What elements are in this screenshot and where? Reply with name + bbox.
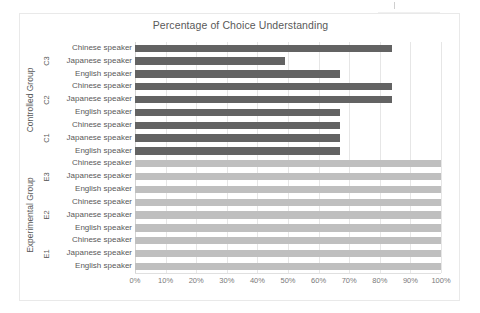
bar-row bbox=[135, 68, 441, 81]
bar bbox=[135, 147, 340, 154]
category-label: Chinese speaker bbox=[54, 234, 132, 247]
x-tick-label: 30% bbox=[219, 276, 234, 285]
x-tick-label: 100% bbox=[431, 276, 450, 285]
bar bbox=[135, 237, 441, 244]
bar bbox=[135, 109, 340, 116]
category-label: Chinese speaker bbox=[54, 42, 132, 55]
condition-label-text: C1 bbox=[42, 133, 51, 143]
bar-row bbox=[135, 157, 441, 170]
condition-label: E2 bbox=[39, 196, 53, 235]
bar bbox=[135, 173, 441, 180]
x-tick-label: 40% bbox=[250, 276, 265, 285]
bar-row bbox=[135, 170, 441, 183]
x-axis-line bbox=[135, 273, 441, 274]
x-tick-label: 50% bbox=[280, 276, 295, 285]
category-axis-labels: Chinese speakerJapanese speakerEnglish s… bbox=[54, 42, 132, 273]
bar-row bbox=[135, 234, 441, 247]
bar bbox=[135, 186, 441, 193]
bar-row bbox=[135, 196, 441, 209]
group-axis-labels: Controlled GroupExperimental Group bbox=[22, 42, 38, 273]
x-tick-label: 0% bbox=[130, 276, 141, 285]
condition-label-text: E1 bbox=[42, 249, 51, 258]
condition-label-text: C2 bbox=[42, 95, 51, 105]
category-label: English speaker bbox=[54, 106, 132, 119]
category-label: Chinese speaker bbox=[54, 196, 132, 209]
condition-label: C1 bbox=[39, 119, 53, 158]
category-label: Japanese speaker bbox=[54, 55, 132, 68]
x-axis-tick-labels: 0%10%20%30%40%50%60%70%80%90%100% bbox=[135, 276, 441, 290]
category-label: English speaker bbox=[54, 145, 132, 158]
condition-axis-labels: C3C2C1E3E2E1 bbox=[39, 42, 53, 273]
bar-row bbox=[135, 247, 441, 260]
bar bbox=[135, 122, 340, 129]
x-tick-label: 10% bbox=[158, 276, 173, 285]
scan-artifact-mark bbox=[394, 2, 395, 9]
bar-row bbox=[135, 93, 441, 106]
bar bbox=[135, 96, 392, 103]
bar bbox=[135, 211, 441, 218]
bar-row bbox=[135, 222, 441, 235]
category-label: English speaker bbox=[54, 68, 132, 81]
chart-title: Percentage of Choice Understanding bbox=[20, 19, 461, 31]
bar bbox=[135, 45, 392, 52]
condition-label-text: E2 bbox=[42, 211, 51, 220]
group-label: Experimental Group bbox=[22, 158, 38, 274]
x-tick-label: 90% bbox=[403, 276, 418, 285]
category-label: Chinese speaker bbox=[54, 80, 132, 93]
category-label: Japanese speaker bbox=[54, 209, 132, 222]
bar-row bbox=[135, 183, 441, 196]
bar bbox=[135, 70, 340, 77]
category-label: English speaker bbox=[54, 260, 132, 273]
category-label: English speaker bbox=[54, 222, 132, 235]
category-label: English speaker bbox=[54, 183, 132, 196]
bar bbox=[135, 199, 441, 206]
group-label-text: Controlled Group bbox=[25, 67, 35, 132]
plot-area bbox=[135, 42, 441, 273]
bar bbox=[135, 224, 441, 231]
group-label: Controlled Group bbox=[22, 42, 38, 158]
bar bbox=[135, 57, 285, 64]
bar-row bbox=[135, 145, 441, 158]
x-tick-label: 60% bbox=[311, 276, 326, 285]
bar-row bbox=[135, 55, 441, 68]
bar-row bbox=[135, 42, 441, 55]
condition-label: E1 bbox=[39, 235, 53, 274]
category-label: Japanese speaker bbox=[54, 93, 132, 106]
bar-row bbox=[135, 260, 441, 273]
category-label: Chinese speaker bbox=[54, 119, 132, 132]
category-label: Japanese speaker bbox=[54, 247, 132, 260]
bar-row bbox=[135, 209, 441, 222]
bar-row bbox=[135, 119, 441, 132]
x-tick-label: 70% bbox=[342, 276, 357, 285]
bar bbox=[135, 263, 441, 270]
bar bbox=[135, 250, 441, 257]
category-label: Chinese speaker bbox=[54, 157, 132, 170]
bar bbox=[135, 134, 340, 141]
bar-row bbox=[135, 106, 441, 119]
bar bbox=[135, 160, 441, 167]
bar-row bbox=[135, 132, 441, 145]
group-label-text: Experimental Group bbox=[25, 177, 35, 253]
gridline bbox=[441, 42, 442, 273]
condition-label: C3 bbox=[39, 42, 53, 81]
chart-container: Percentage of Choice Understanding Contr… bbox=[19, 13, 460, 301]
bar-rows bbox=[135, 42, 441, 273]
condition-label-text: C3 bbox=[42, 56, 51, 66]
x-tick-label: 20% bbox=[189, 276, 204, 285]
category-label: Japanese speaker bbox=[54, 170, 132, 183]
bar bbox=[135, 83, 392, 90]
condition-label-text: E3 bbox=[42, 172, 51, 181]
x-tick-label: 80% bbox=[372, 276, 387, 285]
condition-label: E3 bbox=[39, 158, 53, 197]
category-label: Japanese speaker bbox=[54, 132, 132, 145]
bar-row bbox=[135, 80, 441, 93]
condition-label: C2 bbox=[39, 81, 53, 120]
